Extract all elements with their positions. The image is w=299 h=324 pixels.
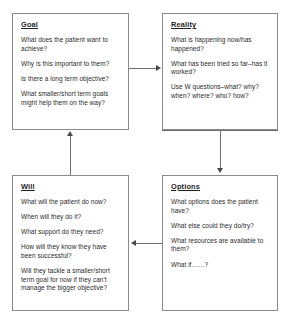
box-line: What support do they need?	[21, 228, 120, 237]
box-line: Is there a long term objective?	[21, 75, 120, 84]
box-title-goal: Goal	[21, 21, 120, 29]
box-line: What smaller/short term goals might help…	[21, 90, 120, 107]
diagram-box-will: Will What will the patient do now? When …	[12, 175, 129, 311]
box-line: What will the patient do now?	[21, 198, 120, 207]
box-line: Will they tackle a smaller/short term go…	[21, 267, 120, 293]
box-line: When will they do it?	[21, 213, 120, 222]
grow-model-diagram: Goal What does the patient want to achie…	[0, 0, 299, 324]
arrowhead-up-icon	[67, 131, 73, 136]
box-lines-goal: What does the patient want to achieve? W…	[21, 36, 120, 107]
connector-goal-to-reality	[129, 68, 157, 69]
box-line: What if……?	[171, 261, 269, 270]
box-lines-options: What options does the patient have? What…	[171, 198, 269, 269]
box-line: Use W questions–what? why? when? where? …	[171, 83, 269, 100]
box-lines-reality: What is happening now/has happened? What…	[171, 36, 269, 100]
diagram-box-options: Options What options does the patient ha…	[162, 175, 278, 311]
box-line: What has been tried so far–has it worked…	[171, 60, 269, 77]
arrowhead-left-icon	[131, 240, 136, 246]
box-line: How will they know they have been succes…	[21, 243, 120, 260]
box-line: What does the patient want to achieve?	[21, 36, 120, 53]
box-lines-will: What will the patient do now? When will …	[21, 198, 120, 293]
box-title-options: Options	[171, 183, 269, 191]
box-line: What options does the patient have?	[171, 198, 269, 215]
box-title-reality: Reality	[171, 21, 269, 29]
connector-reality-to-options	[220, 130, 221, 169]
box-title-will: Will	[21, 183, 120, 191]
connector-options-to-will	[136, 243, 162, 244]
connector-will-to-goal	[70, 136, 71, 175]
box-line: What resources are available to them?	[171, 237, 269, 254]
arrowhead-down-icon	[217, 168, 223, 173]
arrowhead-right-icon	[156, 65, 161, 71]
box-line: Why is this important to them?	[21, 60, 120, 69]
diagram-box-reality: Reality What is happening now/has happen…	[162, 13, 278, 130]
box-line: What is happening now/has happened?	[171, 36, 269, 53]
diagram-box-goal: Goal What does the patient want to achie…	[12, 13, 129, 130]
box-line: What else could they do/try?	[171, 222, 269, 231]
